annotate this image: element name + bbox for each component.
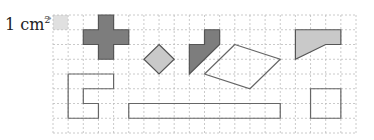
grid-diagram [0,0,374,140]
shape-diamond [144,45,174,75]
shape-cross [83,15,128,59]
unit-square-cell [53,15,68,30]
unit-cell [53,15,68,30]
shape-trapezoid-shape [295,30,340,60]
shapes [68,15,341,118]
shape-parallelogram [205,45,281,89]
shape-c-shape [68,74,113,118]
